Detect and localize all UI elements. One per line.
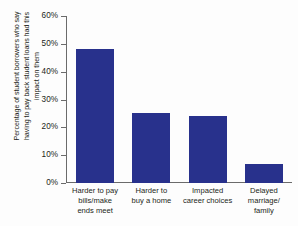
x-axis-category-label-line: Harder to pay (63, 186, 127, 196)
bar[interactable] (76, 49, 114, 183)
plot-area: 60%50%40%30%20%10%0% (66, 16, 292, 183)
x-axis-category-label: Harder to paybills/makeends meet (63, 186, 127, 215)
y-axis-tick-label: 20% (42, 122, 58, 132)
y-axis-tick-label: 50% (42, 39, 58, 49)
x-axis-category-label-line: ends meet (63, 206, 127, 216)
y-axis-tick: 60% (61, 16, 66, 17)
x-axis-category-label-line: family (232, 206, 296, 216)
bars-layer (67, 16, 292, 183)
bar-chart-figure: Percentage of student borrowers who sayh… (0, 0, 298, 226)
x-axis-category-label-line: Impacted (176, 186, 240, 196)
y-axis-tick-label: 0% (46, 178, 58, 188)
y-axis-tick-label: 40% (42, 67, 58, 77)
y-axis-tick: 0% (61, 183, 66, 184)
x-axis-category-label: Harder tobuy a home (119, 186, 183, 206)
x-axis-category-label: Delayedmarriage/family (232, 186, 296, 215)
bar[interactable] (245, 164, 283, 183)
x-axis-category-labels: Harder to paybills/makeends meetHarder t… (67, 186, 292, 226)
x-axis-category-label-line: marriage/ (232, 196, 296, 206)
y-axis-tick: 10% (61, 155, 66, 156)
x-axis-category-label-line: Delayed (232, 186, 296, 196)
y-axis-tick-label: 10% (42, 150, 58, 160)
x-axis-category-label-line: buy a home (119, 196, 183, 206)
x-axis-category-label-line: career choices (176, 196, 240, 206)
y-axis-tick: 20% (61, 127, 66, 128)
y-axis-tick: 50% (61, 44, 66, 45)
x-axis-category-label: Impactedcareer choices (176, 186, 240, 206)
bar[interactable] (189, 116, 227, 183)
bar[interactable] (132, 113, 170, 183)
y-axis-title-line: Percentage of student borrowers who say (12, 12, 22, 141)
y-axis-tick: 30% (61, 100, 66, 101)
y-axis-tick: 40% (61, 72, 66, 73)
y-axis-tick-label: 60% (42, 11, 58, 21)
x-axis-category-label-line: Harder to (119, 186, 183, 196)
y-axis-tick-label: 30% (42, 95, 58, 105)
y-axis-title-text: Percentage of student borrowers who sayh… (12, 12, 43, 141)
x-axis-category-label-line: bills/make (63, 196, 127, 206)
y-axis-title-line: having to pay back student loans had thi… (22, 12, 32, 141)
